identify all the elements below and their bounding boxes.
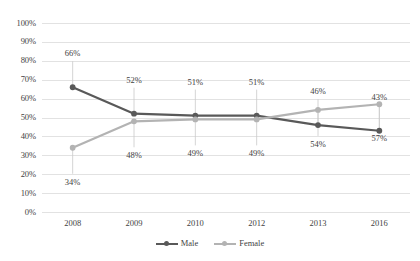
legend-item-male[interactable]: Male — [156, 239, 198, 248]
data-point-marker — [315, 107, 321, 113]
legend-label-female: Female — [239, 239, 264, 248]
data-label-male: 51% — [173, 78, 217, 87]
data-label-male: 51% — [235, 78, 279, 87]
data-label-male: 46% — [296, 87, 340, 96]
legend-label-male: Male — [181, 239, 198, 248]
data-point-marker — [131, 111, 137, 117]
data-point-marker — [70, 145, 76, 151]
data-point-marker — [376, 101, 382, 107]
data-label-female: 57% — [357, 134, 401, 143]
legend-item-female[interactable]: Female — [214, 239, 264, 248]
series-layer — [0, 0, 420, 261]
data-point-marker — [70, 84, 76, 90]
data-label-male: 43% — [357, 93, 401, 102]
chart-legend: Male Female — [0, 239, 420, 248]
data-label-female: 48% — [112, 151, 156, 160]
data-point-marker — [315, 122, 321, 128]
legend-key-male-icon — [156, 239, 178, 248]
data-point-marker — [131, 118, 137, 124]
data-label-female: 54% — [296, 140, 340, 149]
data-label-female: 49% — [235, 149, 279, 158]
data-point-marker — [192, 116, 198, 122]
line-chart: 0%10%20%30%40%50%60%70%80%90%100% 200820… — [0, 0, 420, 261]
data-label-male: 66% — [51, 49, 95, 58]
legend-key-female-icon — [214, 239, 236, 248]
data-point-marker — [254, 116, 260, 122]
data-label-male: 52% — [112, 76, 156, 85]
data-label-female: 49% — [173, 149, 217, 158]
data-label-female: 34% — [51, 178, 95, 187]
